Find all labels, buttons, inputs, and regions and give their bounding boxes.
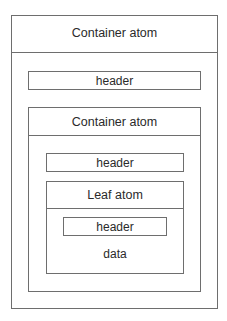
- outer-container-atom: Container atom header Container atom hea…: [11, 15, 218, 309]
- inner-container-divider: [29, 135, 200, 136]
- leaf-data-label: data: [47, 247, 183, 261]
- leaf-atom-divider: [47, 208, 183, 209]
- leaf-atom: Leaf atom header data: [46, 181, 184, 274]
- outer-container-divider: [12, 52, 217, 53]
- outer-header-box: header: [28, 71, 201, 90]
- leaf-atom-title: Leaf atom: [47, 188, 183, 202]
- inner-container-atom: Container atom header Leaf atom header d…: [28, 107, 201, 292]
- leaf-header-label: header: [64, 220, 166, 234]
- inner-container-title: Container atom: [29, 115, 200, 129]
- inner-header-box: header: [46, 153, 184, 172]
- outer-container-title: Container atom: [12, 26, 217, 40]
- leaf-header-box: header: [63, 217, 167, 236]
- outer-header-label: header: [29, 74, 200, 88]
- inner-header-label: header: [47, 156, 183, 170]
